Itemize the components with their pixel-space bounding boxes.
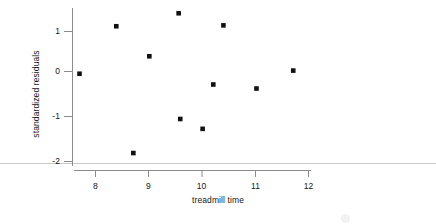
x-tick-label-10: 10 [187, 182, 216, 191]
x-axis-title: treadmill time [0, 196, 436, 205]
y-tick-label-1: 1 [42, 27, 60, 36]
y-axis-title: standardized residuals [32, 0, 41, 194]
y-tick-label-neg2: -2 [42, 157, 60, 166]
x-tick-label-12: 12 [294, 182, 323, 191]
data-point [176, 11, 181, 16]
data-point [254, 86, 259, 91]
x-tick-label-9: 9 [134, 182, 163, 191]
x-tick-label-8: 8 [81, 182, 110, 191]
data-point-group [77, 11, 295, 155]
data-point [211, 82, 216, 87]
data-point [221, 23, 226, 28]
y-axis-title-wrapper: standardized residuals [32, 0, 44, 194]
x-tick-label-11: 11 [241, 182, 270, 191]
data-point [147, 54, 152, 59]
y-tick-label-0: 0 [42, 67, 60, 76]
data-point [178, 117, 183, 122]
data-point [291, 68, 296, 73]
data-point [131, 151, 136, 156]
y-tick-label-neg1: -1 [42, 112, 60, 121]
data-point [200, 127, 205, 132]
data-point [77, 71, 82, 76]
plot-canvas [0, 0, 436, 224]
scatter-plot-figure: 1 0 -1 -2 8 9 10 11 12 treadmill time st… [0, 0, 436, 224]
data-point [114, 24, 119, 29]
